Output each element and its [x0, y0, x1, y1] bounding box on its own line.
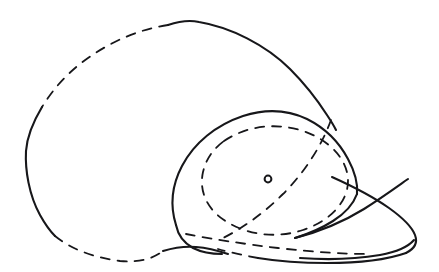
drawing-canvas [0, 0, 439, 272]
line-drawing-figure: Hand-drawn perspective line sketch of a … [0, 0, 439, 272]
canvas-background [0, 0, 439, 272]
